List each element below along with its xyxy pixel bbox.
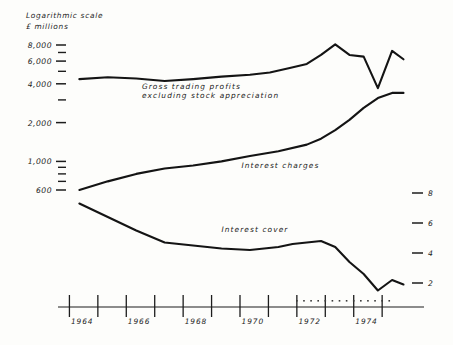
series-line-interest-cover: [79, 204, 403, 291]
x-axis-quarter-dot: [353, 300, 355, 302]
chart-figure: Logarithmic scale £ millions 8,0006,0004…: [0, 0, 453, 345]
x-axis-quarter-dot: [346, 300, 348, 302]
series-line-interest-charges: [79, 93, 403, 190]
x-axis-quarter-dot: [388, 300, 390, 302]
x-axis-quarter-dot: [296, 300, 298, 302]
x-axis-tick-label: 1964: [71, 317, 93, 326]
x-axis-tick-label: 1968: [185, 317, 207, 326]
x-axis-quarter-dot: [367, 300, 369, 302]
series-label: Interest charges: [241, 161, 319, 170]
left-axis-tick-label: 600: [36, 186, 52, 195]
x-axis-tick-label: 1974: [355, 317, 377, 326]
left-axis-tick-label: 6,000: [28, 57, 52, 66]
x-axis-quarter-dot: [374, 300, 376, 302]
series-label: Gross trading profits: [142, 82, 241, 91]
series-label: Interest cover: [222, 225, 289, 234]
x-axis-tick-label: 1970: [242, 317, 264, 326]
left-axis-tick-label: 8,000: [28, 41, 52, 50]
x-axis-quarter-dot: [310, 300, 312, 302]
x-axis-tick-label: 1972: [298, 317, 320, 326]
left-axis-tick-label: 4,000: [28, 80, 52, 89]
x-axis-quarter-dot: [339, 300, 341, 302]
series-label: excluding stock appreciation: [142, 91, 279, 100]
x-axis-quarter-dot: [324, 300, 326, 302]
series-line-gross-trading-profits-excluding-stock-appreciation: [79, 44, 403, 88]
right-axis-tick-label: 8: [428, 189, 433, 198]
left-axis-tick-label: 1,000: [28, 157, 52, 166]
right-axis-tick-label: 6: [428, 219, 433, 228]
right-axis-tick-label: 2: [428, 279, 433, 288]
series-annotations: Gross trading profitsexcluding stock app…: [142, 82, 320, 234]
right-axis: 8642: [412, 189, 433, 288]
right-axis-tick-label: 4: [428, 249, 433, 258]
left-axis-tick-label: 2,000: [28, 119, 52, 128]
chart-canvas: Logarithmic scale £ millions 8,0006,0004…: [0, 0, 453, 345]
x-axis: 196419661968197019721974: [58, 295, 424, 326]
left-axis: 8,0006,0004,0002,0001,000600: [28, 41, 66, 195]
x-axis-quarter-dot: [381, 300, 383, 302]
x-axis-quarter-dot: [317, 300, 319, 302]
x-axis-tick-label: 1966: [128, 317, 150, 326]
x-axis-quarter-dot: [303, 300, 305, 302]
x-axis-quarter-dot: [360, 300, 362, 302]
axis-title-line2: £ millions: [26, 22, 69, 31]
axis-title-line1: Logarithmic scale: [26, 11, 103, 20]
x-axis-quarter-dot: [332, 300, 334, 302]
